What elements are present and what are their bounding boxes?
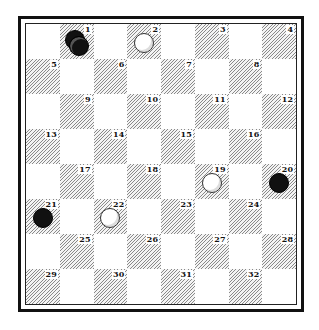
square-number-label: 10 xyxy=(146,95,159,104)
light-square xyxy=(262,129,296,164)
black-king-piece-crown[interactable] xyxy=(69,36,89,56)
light-square xyxy=(161,164,195,199)
light-square xyxy=(127,59,161,94)
light-square xyxy=(60,59,94,94)
light-square xyxy=(195,59,229,94)
square-20[interactable]: 20 xyxy=(262,164,296,199)
square-12[interactable]: 12 xyxy=(262,94,296,129)
white-piece[interactable] xyxy=(202,173,222,193)
square-16[interactable]: 16 xyxy=(229,129,263,164)
square-number-label: 30 xyxy=(112,270,125,279)
square-number-label: 23 xyxy=(180,200,193,209)
square-number-label: 14 xyxy=(112,130,125,139)
light-square xyxy=(161,94,195,129)
square-number-label: 32 xyxy=(247,270,260,279)
light-square xyxy=(195,129,229,164)
square-number-label: 22 xyxy=(112,200,125,209)
square-10[interactable]: 10 xyxy=(127,94,161,129)
square-number-label: 25 xyxy=(78,235,91,244)
square-13[interactable]: 13 xyxy=(26,129,60,164)
square-8[interactable]: 8 xyxy=(229,59,263,94)
square-9[interactable]: 9 xyxy=(60,94,94,129)
square-14[interactable]: 14 xyxy=(94,129,128,164)
light-square xyxy=(94,24,128,59)
square-6[interactable]: 6 xyxy=(94,59,128,94)
square-7[interactable]: 7 xyxy=(161,59,195,94)
square-number-label: 15 xyxy=(180,130,193,139)
square-23[interactable]: 23 xyxy=(161,199,195,234)
square-number-label: 3 xyxy=(219,25,227,34)
light-square xyxy=(127,199,161,234)
square-number-label: 4 xyxy=(286,25,294,34)
square-5[interactable]: 5 xyxy=(26,59,60,94)
square-number-label: 31 xyxy=(180,270,193,279)
light-square xyxy=(60,269,94,304)
square-number-label: 16 xyxy=(247,130,260,139)
light-square xyxy=(262,269,296,304)
light-square xyxy=(229,94,263,129)
square-21[interactable]: 21 xyxy=(26,199,60,234)
square-number-label: 21 xyxy=(45,200,58,209)
square-number-label: 19 xyxy=(213,165,226,174)
square-number-label: 17 xyxy=(78,165,91,174)
white-piece[interactable] xyxy=(100,208,120,228)
square-number-label: 24 xyxy=(247,200,260,209)
square-number-label: 9 xyxy=(84,95,92,104)
black-piece[interactable] xyxy=(33,208,53,228)
light-square xyxy=(94,94,128,129)
square-number-label: 5 xyxy=(50,60,58,69)
square-number-label: 6 xyxy=(118,60,126,69)
light-square xyxy=(161,24,195,59)
light-square xyxy=(94,164,128,199)
square-25[interactable]: 25 xyxy=(60,234,94,269)
light-square xyxy=(127,129,161,164)
light-square xyxy=(94,234,128,269)
black-piece[interactable] xyxy=(269,173,289,193)
light-square xyxy=(127,269,161,304)
square-number-label: 20 xyxy=(281,165,294,174)
board-inner-frame: 1234567891011121314151617181920212223242… xyxy=(25,23,297,305)
square-15[interactable]: 15 xyxy=(161,129,195,164)
square-32[interactable]: 32 xyxy=(229,269,263,304)
light-square xyxy=(262,59,296,94)
square-17[interactable]: 17 xyxy=(60,164,94,199)
light-square xyxy=(161,234,195,269)
square-1[interactable]: 1 xyxy=(60,24,94,59)
board-outer-frame: 1234567891011121314151617181920212223242… xyxy=(18,16,304,312)
square-27[interactable]: 27 xyxy=(195,234,229,269)
square-number-label: 26 xyxy=(146,235,159,244)
square-29[interactable]: 29 xyxy=(26,269,60,304)
light-square xyxy=(195,199,229,234)
square-number-label: 2 xyxy=(151,25,159,34)
square-2[interactable]: 2 xyxy=(127,24,161,59)
square-11[interactable]: 11 xyxy=(195,94,229,129)
square-3[interactable]: 3 xyxy=(195,24,229,59)
checkerboard: 1234567891011121314151617181920212223242… xyxy=(26,24,296,304)
light-square xyxy=(229,24,263,59)
square-28[interactable]: 28 xyxy=(262,234,296,269)
square-24[interactable]: 24 xyxy=(229,199,263,234)
square-number-label: 13 xyxy=(45,130,58,139)
square-number-label: 28 xyxy=(281,235,294,244)
light-square xyxy=(60,129,94,164)
light-square xyxy=(229,164,263,199)
light-square xyxy=(26,24,60,59)
light-square xyxy=(60,199,94,234)
light-square xyxy=(26,94,60,129)
square-number-label: 8 xyxy=(253,60,261,69)
square-number-label: 29 xyxy=(45,270,58,279)
square-19[interactable]: 19 xyxy=(195,164,229,199)
square-number-label: 11 xyxy=(213,95,226,104)
light-square xyxy=(195,269,229,304)
square-number-label: 18 xyxy=(146,165,159,174)
square-31[interactable]: 31 xyxy=(161,269,195,304)
square-4[interactable]: 4 xyxy=(262,24,296,59)
square-26[interactable]: 26 xyxy=(127,234,161,269)
square-number-label: 27 xyxy=(213,235,226,244)
square-22[interactable]: 22 xyxy=(94,199,128,234)
light-square xyxy=(229,234,263,269)
light-square xyxy=(26,164,60,199)
white-piece[interactable] xyxy=(134,33,154,53)
square-30[interactable]: 30 xyxy=(94,269,128,304)
square-18[interactable]: 18 xyxy=(127,164,161,199)
